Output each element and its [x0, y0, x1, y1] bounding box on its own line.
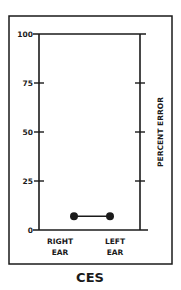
x-tick-label: LEFT [105, 237, 126, 246]
y-ticks [34, 83, 145, 181]
y-tick-label: 75 [23, 79, 33, 88]
y-tick-labels: 0255075100 [17, 30, 33, 235]
chart: 0255075100 PERCENT ERROR RIGHTEARLEFTEAR… [0, 0, 181, 290]
outer-frame [9, 16, 172, 264]
data-point [106, 212, 114, 220]
y-tick-label: 0 [28, 226, 33, 235]
y-tick-label: 50 [23, 128, 33, 137]
y-tick-label: 25 [23, 177, 33, 186]
x-tick-labels: RIGHTEARLEFTEAR [47, 237, 126, 257]
y-tick-label: 100 [17, 30, 33, 39]
x-tick-label: EAR [52, 248, 69, 257]
x-tick-label: RIGHT [47, 237, 74, 246]
data-point [70, 212, 78, 220]
series-ces [70, 212, 114, 220]
y-axis-label: PERCENT ERROR [156, 97, 165, 167]
chart-title: CES [76, 270, 104, 285]
x-tick-label: EAR [107, 248, 124, 257]
